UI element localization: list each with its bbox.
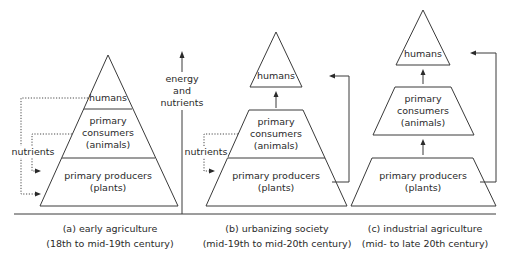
caption-c: (c) industrial agriculture (mid- to late… [362,221,489,251]
pyramid-b-humans-label: humans [257,70,295,82]
caption-b: (b) urbanizing society (mid-19th to mid-… [203,221,352,251]
flow-bracket-b-plants-to-humans [329,74,349,183]
pyramid-b-nutrients-label: nutrients [185,146,228,158]
caption-a: (a) early agriculture (18th to mid-19th … [46,221,173,251]
arrow-right-icon [35,192,41,197]
pyramid-a-consumers-label: primary consumers (animals) [82,115,134,151]
flow-arrow-c-producers-to-consumers [421,139,426,155]
flow-arrow-b-consumers-to-humans [274,91,279,108]
arrow-up-icon [421,69,426,75]
pyramid-a-producers-label: primary producers (plants) [64,170,152,194]
pyramid-a-nutrients-label: nutrients [12,146,55,158]
pyramid-c-consumers-label: primary consumers (animals) [397,93,449,129]
arrow-right-icon [35,169,41,174]
arrow-up-icon [421,139,426,145]
arrow-up-icon [274,91,279,97]
arrow-left-icon [470,51,476,56]
pyramid-b-consumers-label: primary consumers (animals) [250,116,302,152]
flow-arrow-c-consumers-to-humans [421,69,426,84]
pyramid-c-producers-label: primary producers (plants) [379,170,467,194]
axis-label: energy and nutrients [161,72,204,110]
pyramid-b-producers-label: primary producers (plants) [232,170,320,194]
arrow-right-icon [209,169,215,174]
pyramid-c-humans-label: humans [404,48,442,60]
axis-arrow-up-icon [180,51,185,58]
pyramid-a-humans-label: humans [89,92,127,104]
arrow-left-icon [329,74,335,79]
